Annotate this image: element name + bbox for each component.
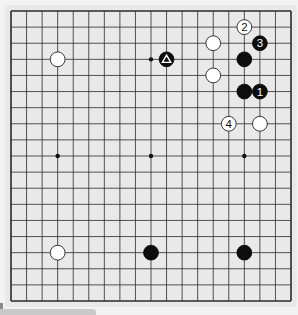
white-stone[interactable]: 2 [237,20,252,35]
white-stone[interactable] [50,245,65,260]
move-number-label: 4 [226,118,233,130]
black-stone[interactable] [237,245,252,260]
white-stone[interactable]: 4 [221,116,236,131]
white-stone[interactable] [50,52,65,67]
bottom-tab-bar [0,309,96,315]
black-stone[interactable]: 1 [252,84,267,99]
white-stone[interactable] [252,116,267,131]
move-number-label: 3 [257,37,263,49]
star-point [149,154,153,158]
go-board[interactable]: 2314 [0,0,298,315]
white-stone[interactable] [206,68,221,83]
star-point [149,57,153,61]
move-number-label: 1 [257,86,263,98]
star-point [242,154,246,158]
black-stone[interactable]: 3 [252,36,267,51]
black-stone[interactable] [237,84,252,99]
black-stone[interactable] [144,245,159,260]
star-point [55,154,59,158]
go-board-canvas[interactable]: 2314 [0,0,298,315]
black-stone[interactable] [159,52,174,67]
move-number-label: 2 [241,21,247,33]
black-stone[interactable] [237,52,252,67]
white-stone[interactable] [206,36,221,51]
